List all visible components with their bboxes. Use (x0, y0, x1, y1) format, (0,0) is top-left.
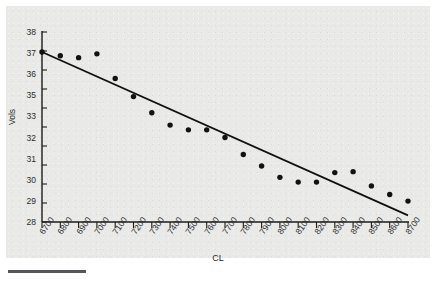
y-tick-label: 32 (18, 134, 36, 143)
regression-line (42, 52, 408, 215)
y-tick-label: 36 (18, 70, 36, 79)
data-point (149, 110, 154, 115)
data-point (277, 175, 282, 180)
data-point (186, 127, 191, 132)
data-point (332, 170, 337, 175)
data-point (314, 179, 319, 184)
y-tick-label: 33 (18, 112, 36, 121)
data-point (39, 49, 44, 54)
y-tick-marks (42, 32, 47, 222)
x-axis-title: CL (0, 253, 436, 263)
plot-canvas (0, 0, 436, 286)
data-point (76, 55, 81, 60)
data-point (222, 135, 227, 140)
caption-rule (8, 270, 86, 273)
data-point (350, 169, 355, 174)
data-point (259, 163, 264, 168)
scatter-points (39, 49, 410, 204)
y-axis-title: Vols (7, 109, 17, 125)
figure-container: 38373635333231302928 6700680069007000710… (0, 0, 436, 286)
data-point (204, 127, 209, 132)
data-point (241, 152, 246, 157)
data-point (113, 76, 118, 81)
data-point (94, 51, 99, 56)
data-point (405, 198, 410, 203)
y-tick-label: 30 (18, 176, 36, 185)
y-tick-label: 38 (18, 28, 36, 37)
y-tick-label: 28 (18, 218, 36, 227)
y-tick-label: 31 (18, 155, 36, 164)
data-point (387, 192, 392, 197)
y-tick-label: 35 (18, 91, 36, 100)
data-point (58, 53, 63, 58)
data-point (131, 94, 136, 99)
data-point (296, 179, 301, 184)
y-tick-label: 29 (18, 197, 36, 206)
data-point (369, 183, 374, 188)
data-point (167, 122, 172, 127)
y-tick-label: 37 (18, 49, 36, 58)
